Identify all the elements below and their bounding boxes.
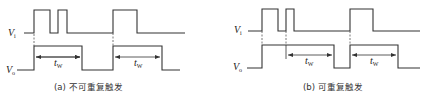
vi-label-a: Vi	[8, 27, 16, 39]
caption-a: (a) 不可重复触发	[54, 82, 123, 92]
vo-label-b: Vo	[233, 61, 242, 73]
vo-label-a: Vo	[6, 64, 15, 76]
vi-waveform-a	[24, 10, 185, 33]
panel-b: Vi Vo tW tW (b) 可重复触发	[233, 9, 420, 92]
vi-label-b: Vi	[234, 24, 242, 36]
tw-label: tW	[134, 57, 143, 69]
tw-label: tW	[370, 55, 379, 67]
vo-waveform-b	[247, 45, 420, 68]
panel-a: Vi Vo tW tW (a) 不可重复触发	[6, 10, 185, 92]
vi-waveform-b	[248, 9, 420, 31]
caption-b: (b) 可重复触发	[303, 82, 363, 92]
vo-waveform-a	[17, 46, 180, 70]
tw-label: tW	[54, 57, 63, 69]
timing-diagram: Vi Vo tW tW (a) 不可重复触发 Vi Vo tW tW (b) 可…	[0, 0, 425, 100]
tw-label: tW	[305, 55, 314, 67]
